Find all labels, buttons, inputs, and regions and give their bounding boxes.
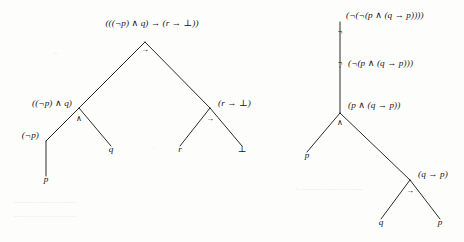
node-label-l-r: r	[178, 145, 182, 154]
node-label-l-bot: ⊥	[238, 145, 247, 154]
node-label-r-and: (p ∧ (q → p))	[348, 101, 400, 110]
node-label-l-p: p	[44, 175, 49, 184]
node-label-l-q: q	[109, 145, 114, 154]
node-label-r-imp: (q → p)	[418, 170, 448, 179]
node-label-l-not: (¬p)	[22, 131, 39, 140]
node-label-r-q: q	[379, 218, 384, 227]
connective-label-r-and: ∧	[337, 119, 343, 127]
tree-edge	[307, 113, 340, 152]
node-label-r-p2: p	[438, 218, 443, 227]
node-label-r-root: (¬(¬(p ∧ (q → p))))	[346, 11, 424, 20]
connective-label-l-imp2: →	[206, 115, 214, 123]
tree-edge	[210, 108, 242, 146]
connective-label-r-root: ¬	[338, 28, 343, 36]
page-bleed-artifact-0: ————————	[14, 198, 77, 206]
node-label-l-imp2: (r → ⊥)	[218, 99, 251, 108]
tree-edge	[46, 108, 79, 141]
tree-edge	[340, 113, 410, 180]
node-label-l-and: ((¬p) ∧ q)	[32, 99, 72, 108]
left-tree-edges	[46, 42, 242, 176]
page-bleed-artifact-2: ————————	[14, 212, 77, 220]
node-label-l-root: (((¬p) ∧ q) → (r → ⊥))	[105, 19, 198, 28]
tree-edge	[410, 180, 440, 219]
connective-label-r-not2: ¬	[338, 59, 343, 67]
tree-edge	[145, 42, 210, 108]
node-label-r-not2: (¬(p ∧ (q → p)))	[348, 59, 413, 68]
page-bleed-artifact-1: ————————	[300, 185, 363, 193]
node-label-r-p: p	[305, 151, 310, 160]
figure-page: (((¬p) ∧ q) → (r → ⊥))→((¬p) ∧ q)∧(r → ⊥…	[0, 0, 464, 242]
tree-edge	[79, 108, 111, 146]
tree-edge	[79, 42, 145, 108]
connective-label-r-imp: →	[406, 187, 414, 195]
connective-label-l-root: →	[141, 46, 149, 54]
connective-label-l-and: ∧	[76, 115, 82, 123]
